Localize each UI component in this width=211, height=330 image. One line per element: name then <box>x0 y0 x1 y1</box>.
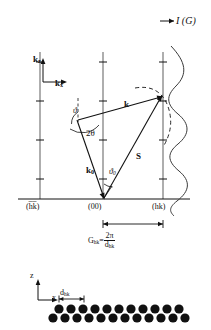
atom-row-bottom <box>48 313 189 322</box>
axis-label-kx: kx <box>55 79 63 88</box>
intensity-arrow-icon <box>160 19 174 24</box>
vector-label-k: k <box>124 100 129 109</box>
axis-label-z: z <box>30 272 34 280</box>
angle-label-theta0: ϑ0 <box>109 168 116 177</box>
crystal-lattice <box>48 304 189 322</box>
lattice-rod-hk <box>159 52 167 199</box>
intensity-label: I (G) <box>176 16 196 26</box>
lattice-spacing-label: dhk <box>60 289 69 298</box>
vector-label-S: S <box>136 152 141 161</box>
axis-label-kz: kz <box>33 55 41 64</box>
formula-G-hk: Ghk=2πdhk <box>88 232 115 250</box>
diffraction-figure: I (G) kz kx ϑ 2θ ϑ0 k k0 S (h̅k̅) (00) (… <box>0 0 211 330</box>
atom-row-top <box>54 304 183 313</box>
rod-label-hkbar: (h̅k̅) <box>26 203 39 211</box>
lattice-rod-00 <box>99 52 107 199</box>
G-measure-bar <box>103 220 163 228</box>
ewald-sphere-arc <box>135 87 171 147</box>
axis-label-x: x <box>52 294 56 302</box>
rod-label-hk: (hk) <box>152 203 165 211</box>
angle-label-2theta: 2θ <box>86 129 95 138</box>
angle-theta0-leg <box>104 186 112 198</box>
intensity-profile-curve <box>169 46 188 216</box>
rod-label-00: (00) <box>88 203 101 211</box>
angle-label-theta: ϑ <box>73 107 77 115</box>
vector-label-k0: k0 <box>86 166 94 175</box>
figure-canvas <box>0 0 211 330</box>
